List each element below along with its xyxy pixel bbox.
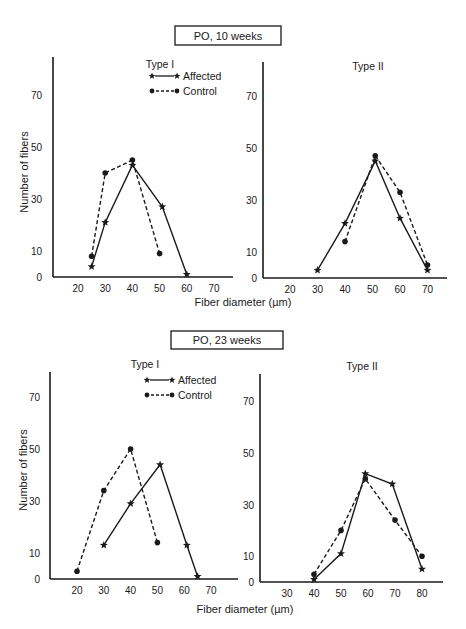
x-tick-label: 40: [127, 283, 139, 294]
y-tick-label: 70: [243, 396, 255, 407]
section-title-23-weeks: PO, 23 weeks: [171, 331, 283, 349]
y-tick-label: 50: [243, 448, 255, 459]
panel-23wk-type-i: Type I010305070203040506070AffectedContr…: [29, 358, 238, 596]
affected-series-line: [318, 161, 428, 270]
figure: PO, 10 weeks PO, 23 weeks Number of fibe…: [0, 0, 466, 629]
x-tick-label: 70: [205, 585, 217, 596]
x-tick-label: 20: [72, 283, 84, 294]
affected-series-line: [314, 474, 422, 580]
y-axis-label-bottom: Number of fibers: [17, 429, 29, 511]
star-marker-icon: [149, 72, 156, 79]
star-marker-icon: [88, 262, 96, 270]
panel-title: Type II: [346, 360, 378, 372]
x-tick-label: 30: [98, 585, 110, 596]
x-tick-label: 50: [152, 585, 164, 596]
panel-title: Type II: [352, 60, 384, 72]
y-tick-label: 50: [246, 143, 258, 154]
y-tick-label: 0: [34, 574, 40, 585]
star-marker-icon: [156, 460, 164, 468]
x-tick-label: 70: [389, 588, 401, 599]
panel-title: Type I: [146, 58, 175, 70]
circle-marker-icon: [419, 553, 425, 559]
legend-control-label: Control: [178, 389, 212, 401]
x-tick-label: 50: [367, 284, 379, 295]
y-tick-label: 10: [29, 548, 41, 559]
panel-10wk-type-ii: Type II010305070203040506070: [246, 60, 447, 295]
x-axis-label-top: Fiber diameter (µm): [195, 296, 292, 308]
star-marker-icon: [341, 219, 349, 227]
x-tick-label: 30: [100, 283, 112, 294]
star-marker-icon: [183, 541, 191, 549]
circle-marker-icon: [170, 393, 175, 398]
x-tick-label: 60: [179, 585, 191, 596]
y-tick-label: 70: [31, 90, 43, 101]
y-tick-label: 70: [29, 392, 41, 403]
x-axis-label-bottom: Fiber diameter (µm): [197, 603, 294, 615]
x-tick-label: 60: [362, 588, 374, 599]
y-tick-label: 70: [246, 91, 258, 102]
circle-marker-icon: [150, 89, 155, 94]
circle-marker-icon: [102, 170, 108, 176]
circle-marker-icon: [372, 153, 378, 159]
x-tick-label: 60: [394, 284, 406, 295]
legend-affected-label: Affected: [178, 374, 216, 386]
y-tick-label: 30: [31, 194, 43, 205]
y-axis-label-top: Number of fibers: [18, 131, 30, 213]
circle-marker-icon: [311, 571, 317, 577]
star-marker-icon: [418, 565, 426, 573]
circle-marker-icon: [89, 253, 95, 259]
x-tick-label: 20: [71, 585, 83, 596]
control-series-line: [92, 160, 160, 256]
circle-marker-icon: [145, 393, 150, 398]
x-tick-label: 80: [416, 588, 428, 599]
star-marker-icon: [169, 376, 176, 383]
circle-marker-icon: [425, 262, 431, 268]
circle-marker-icon: [338, 528, 344, 534]
circle-marker-icon: [128, 446, 134, 452]
x-tick-label: 70: [422, 284, 434, 295]
circle-marker-icon: [130, 157, 136, 163]
x-tick-label: 70: [208, 283, 220, 294]
circle-marker-icon: [157, 251, 163, 257]
circle-marker-icon: [101, 488, 107, 494]
circle-marker-icon: [397, 189, 403, 195]
circle-marker-icon: [392, 517, 398, 523]
y-tick-label: 30: [243, 500, 255, 511]
y-tick-label: 30: [246, 195, 258, 206]
x-tick-label: 50: [154, 283, 166, 294]
control-series-line: [77, 449, 157, 571]
y-tick-label: 0: [248, 577, 254, 588]
panel-10wk-type-i: Type I010305070203040506070AffectedContr…: [31, 57, 233, 294]
y-tick-label: 50: [29, 444, 41, 455]
y-tick-label: 0: [251, 273, 257, 284]
x-tick-label: 50: [335, 588, 347, 599]
panel-23wk-type-ii: Type II010305070304050607080: [243, 360, 443, 599]
y-tick-label: 10: [246, 247, 258, 258]
x-tick-label: 30: [312, 284, 324, 295]
circle-marker-icon: [342, 239, 348, 245]
x-tick-label: 40: [308, 588, 320, 599]
star-marker-icon: [144, 376, 151, 383]
star-marker-icon: [174, 72, 181, 79]
x-tick-label: 30: [281, 588, 293, 599]
circle-marker-icon: [363, 476, 369, 482]
section-title-text: PO, 10 weeks: [194, 30, 263, 42]
legend-affected-label: Affected: [183, 70, 221, 82]
circle-marker-icon: [155, 540, 161, 546]
star-marker-icon: [396, 214, 404, 222]
y-tick-label: 10: [31, 246, 43, 257]
section-title-10-weeks: PO, 10 weeks: [175, 26, 281, 45]
y-tick-label: 50: [31, 142, 43, 153]
x-tick-label: 40: [125, 585, 137, 596]
legend: AffectedControl: [144, 374, 217, 401]
star-marker-icon: [314, 266, 322, 274]
x-tick-label: 20: [284, 284, 296, 295]
circle-marker-icon: [175, 89, 180, 94]
panel-title: Type I: [131, 358, 160, 370]
y-tick-label: 10: [243, 551, 255, 562]
legend-control-label: Control: [183, 85, 217, 97]
star-marker-icon: [388, 480, 396, 488]
legend: AffectedControl: [149, 70, 222, 97]
x-tick-label: 60: [181, 283, 193, 294]
y-tick-label: 30: [29, 496, 41, 507]
